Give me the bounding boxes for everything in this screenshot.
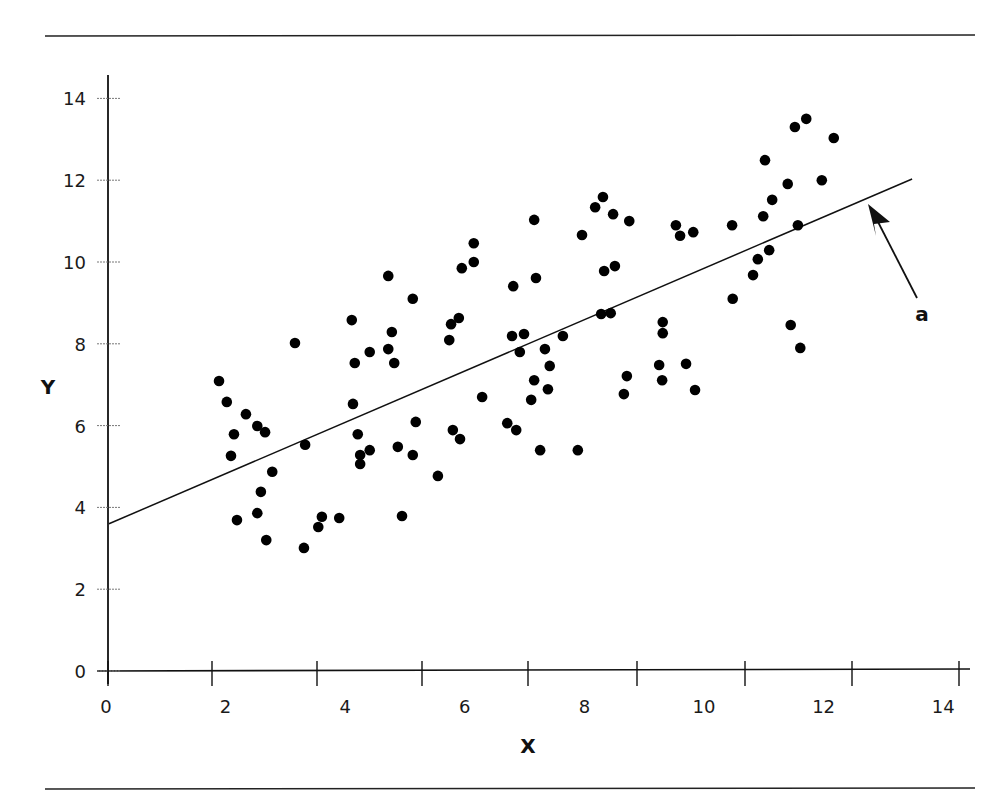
data-point [801,114,812,125]
data-point [573,445,584,456]
data-point [793,220,804,231]
data-point [364,347,375,358]
data-point [267,467,278,478]
data-point [346,315,357,326]
data-point [260,427,271,438]
data-point [407,450,418,461]
data-point [468,257,479,268]
data-point [767,195,778,206]
data-point [817,175,828,186]
data-point [511,425,522,436]
y-tick-label: 14 [63,88,86,109]
data-point [508,281,519,292]
data-point [596,309,607,320]
y-tick-label: 8 [75,334,86,355]
data-point [608,209,619,220]
data-point [543,384,554,395]
y-tick-label: 6 [75,416,86,437]
data-point [526,395,537,406]
data-point [393,442,404,453]
data-point [790,122,801,133]
x-axis [97,669,970,671]
x-tick-label: 6 [459,696,470,717]
data-point [300,440,311,451]
data-point [349,358,360,369]
data-point [383,344,394,355]
bottom-rule [45,788,975,789]
data-point [252,508,263,519]
data-point [657,328,668,339]
x-tick-label: 2 [220,696,231,717]
data-point [671,220,682,231]
data-point [299,543,310,554]
y-ticks: 02468101214 [63,88,121,682]
data-point [599,266,610,277]
data-point [448,425,459,436]
y-axis-title: Y [40,375,56,399]
data-point [619,389,630,400]
data-point [519,329,530,340]
x-tick-label: 10 [693,696,716,717]
x-tick-label: 8 [579,696,590,717]
data-point [454,313,465,324]
axes: 02468101214 02468101214 [63,75,970,717]
data-point [256,487,267,498]
data-point [558,331,569,342]
x-tick-label: 4 [339,696,350,717]
data-point [502,418,513,429]
data-point [535,445,546,456]
data-point [690,385,701,396]
data-point [397,511,408,522]
top-rule [45,35,975,36]
data-point [727,294,738,305]
data-point [748,270,759,281]
data-point [622,371,633,382]
data-point [334,513,345,524]
annotation-label-a: a [915,302,929,326]
data-point [675,231,686,242]
data-point [290,338,301,349]
data-point [383,271,394,282]
data-point [529,215,540,226]
data-point [654,360,665,371]
data-point [364,445,375,456]
data-point [531,273,542,284]
data-point [605,308,616,319]
data-point [455,434,466,445]
x-tick-label: 0 [100,696,111,717]
data-point [828,133,839,144]
data-point [624,216,635,227]
data-point [681,359,692,370]
data-point [610,261,621,272]
data-point [232,515,243,526]
data-point [507,331,518,342]
data-point [727,220,738,231]
data-point [387,327,398,338]
data-point [590,202,601,213]
data-point [352,429,363,440]
data-point [577,230,588,241]
data-point [598,192,609,203]
data-point [214,376,225,387]
data-point [313,522,324,533]
y-tick-label: 2 [75,579,86,600]
annotation-arrow-icon [868,204,917,298]
y-tick-label: 12 [63,170,86,191]
data-points [214,114,839,554]
data-point [657,317,668,328]
data-point [407,294,418,305]
x-tick-label: 14 [932,696,955,717]
data-point [433,471,444,482]
data-point [544,361,555,372]
data-point [241,409,252,420]
data-point [389,358,400,369]
data-point [477,392,488,403]
data-point [688,227,699,238]
data-point [355,459,366,470]
scatter-chart: 02468101214 02468101214 Y X a [0,0,1008,801]
data-point [795,343,806,354]
y-tick-label: 0 [75,661,86,682]
data-point [753,254,764,265]
data-point [348,399,359,410]
data-point [457,263,468,274]
